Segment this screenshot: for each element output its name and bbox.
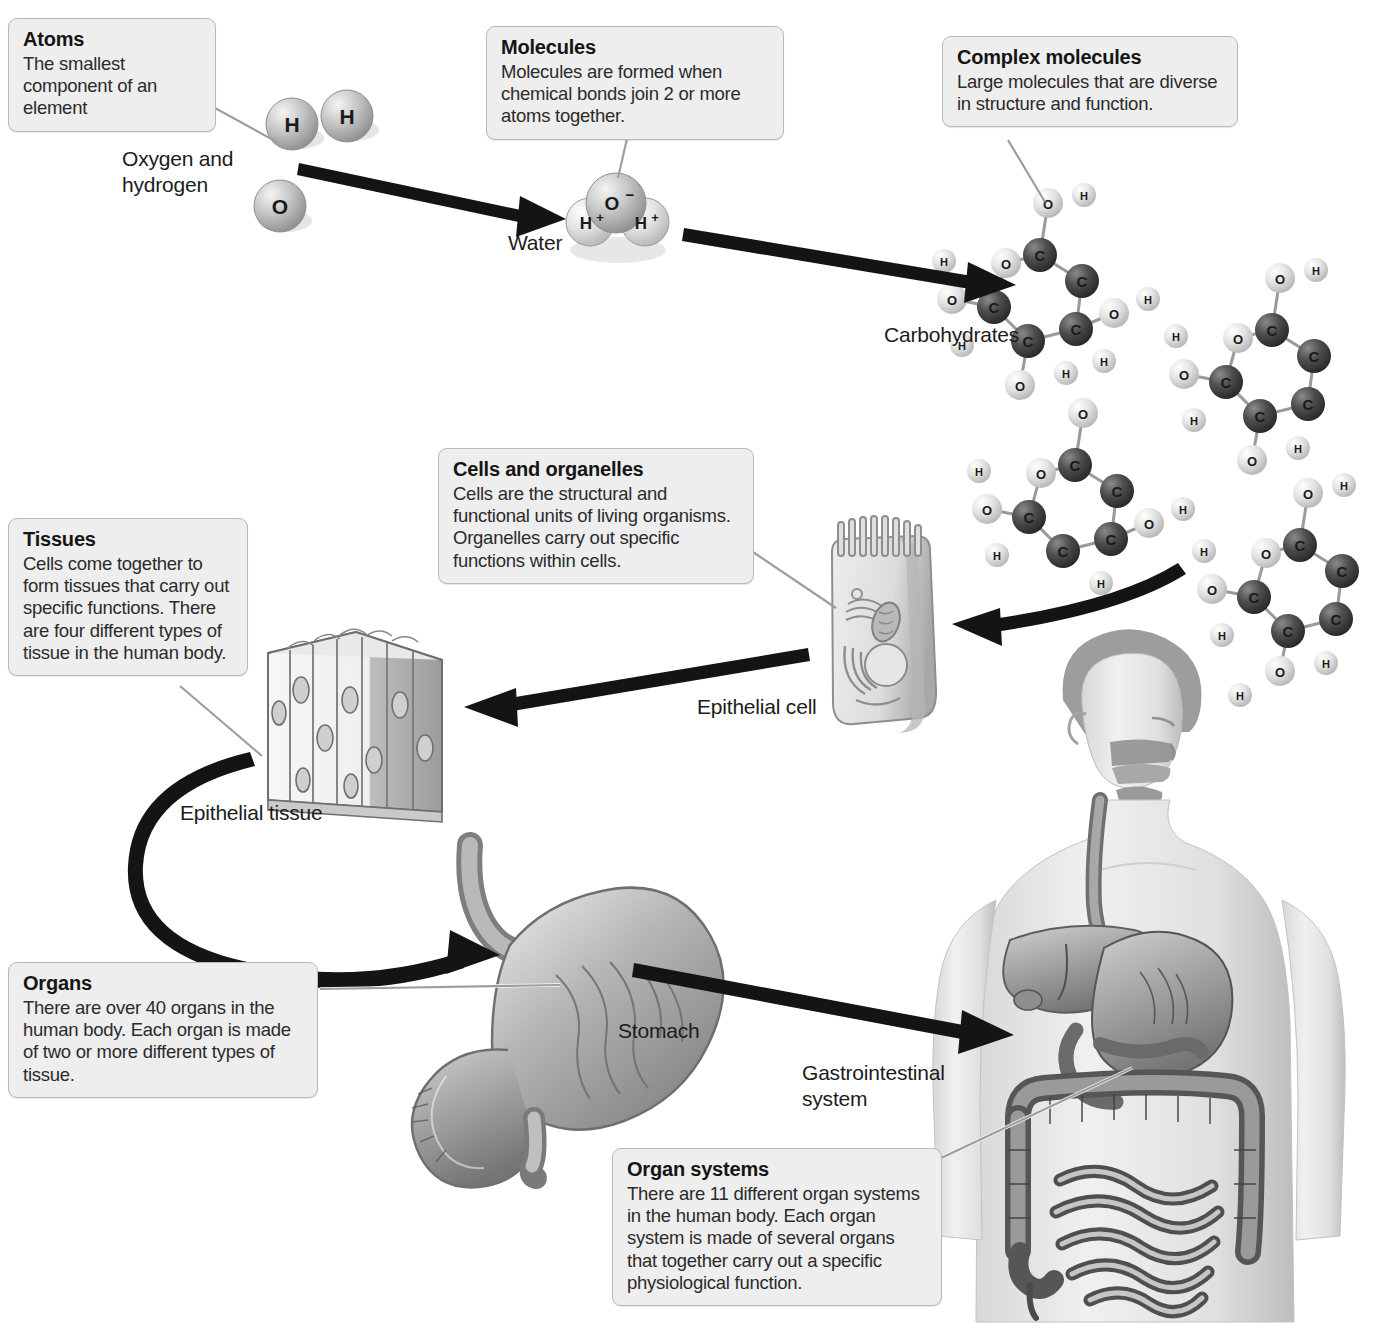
callout-complex-molecules-title: Complex molecules [957,46,1225,70]
stomach-illustration [412,845,724,1187]
human-body-illustration [933,629,1345,1322]
atom-hydrogen-1: H [266,98,324,150]
leader-cells [753,552,836,608]
svg-text:−: − [626,186,635,203]
water-molecule: O − H + H + [566,173,669,263]
callout-complex-molecules[interactable]: Complex molecules Large molecules that a… [942,36,1238,127]
callout-organs-body: There are over 40 organs in the human bo… [23,997,305,1087]
callout-organs[interactable]: Organs There are over 40 organs in the h… [8,962,318,1098]
svg-text:O: O [1179,368,1189,383]
callout-complex-molecules-body: Large molecules that are diverse in stru… [957,71,1225,116]
svg-text:C: C [1283,623,1294,640]
svg-text:H: H [339,105,354,128]
callout-molecules[interactable]: Molecules Molecules are formed when chem… [486,26,784,140]
svg-text:O: O [1275,665,1285,680]
svg-text:C: C [1309,348,1320,365]
svg-text:C: C [1255,408,1266,425]
callout-tissues-title: Tissues [23,528,235,552]
leader-organ-systems [920,1068,1132,1168]
svg-text:H: H [1340,480,1348,492]
svg-text:C: C [1106,531,1117,548]
svg-text:O: O [272,195,288,218]
hierarchy-diagram: H H O O − H + H + [0,0,1377,1336]
callout-tissues-body: Cells come together to form tissues that… [23,553,235,665]
svg-text:H: H [635,214,647,233]
svg-text:O: O [947,293,957,308]
svg-text:H: H [940,256,948,268]
svg-text:H: H [580,214,592,233]
svg-text:O: O [982,503,992,518]
svg-text:H: H [284,113,299,136]
svg-text:+: + [596,210,604,225]
svg-text:H: H [1322,658,1330,670]
epithelial-cell-illustration [832,516,936,733]
callout-cells-and-organelles[interactable]: Cells and organelles Cells are the struc… [438,448,754,584]
svg-text:C: C [1249,589,1260,606]
svg-text:C: C [1035,247,1046,264]
svg-text:C: C [1071,321,1082,338]
svg-text:O: O [1207,583,1217,598]
svg-text:O: O [1261,547,1271,562]
atom-oxygen: O [254,180,312,232]
callout-organ-systems-title: Organ systems [627,1158,929,1182]
leader-organs-line [320,985,560,989]
svg-text:+: + [651,210,659,225]
callout-molecules-body: Molecules are formed when chemical bonds… [501,61,771,128]
svg-text:C: C [1024,509,1035,526]
svg-text:H: H [1144,294,1152,306]
svg-text:H: H [1097,578,1105,590]
leader-organs [320,985,560,989]
svg-text:H: H [1190,415,1198,427]
arrow-complex-molecules-to-cells [952,563,1186,646]
callout-cells-title: Cells and organelles [453,458,741,482]
svg-text:O: O [1001,257,1011,272]
callout-molecules-title: Molecules [501,36,771,60]
svg-text:C: C [1295,537,1306,554]
leader-tissues [180,686,262,756]
svg-text:H: H [1172,331,1180,343]
callout-atoms-body: The smallest component of an element [23,53,203,120]
svg-text:H: H [1236,690,1244,702]
svg-text:C: C [1303,396,1314,413]
label-epithelial-tissue: Epithelial tissue [180,800,323,826]
svg-text:O: O [1015,379,1025,394]
svg-text:O: O [1144,517,1154,532]
svg-text:O: O [1233,332,1243,347]
callout-atoms[interactable]: Atoms The smallest component of an eleme… [8,18,216,132]
svg-text:C: C [1267,322,1278,339]
svg-text:C: C [1058,543,1069,560]
svg-text:C: C [1112,483,1123,500]
svg-text:C: C [1077,273,1088,290]
atom-hydrogen-2: H [321,90,379,142]
svg-text:C: C [1221,374,1232,391]
callout-organs-title: Organs [23,972,305,996]
callout-cells-body: Cells are the structural and functional … [453,483,741,573]
svg-text:O: O [1109,307,1119,322]
svg-text:C: C [1023,333,1034,350]
callout-organ-systems[interactable]: Organ systems There are 11 different org… [612,1148,942,1306]
svg-text:H: H [1218,630,1226,642]
label-gastrointestinal-system: Gastrointestinal system [802,1060,945,1111]
svg-text:O: O [1043,197,1053,212]
svg-text:H: H [975,466,983,478]
callout-organ-systems-body: There are 11 different organ systems in … [627,1183,929,1295]
leader-organ-systems-line [920,1068,1132,1168]
svg-text:C: C [1070,457,1081,474]
carbohydrate-molecule: C C C C C O O H O H O H O H H H [932,183,1359,707]
svg-text:H: H [1179,504,1187,516]
label-epithelial-cell: Epithelial cell [697,694,817,720]
svg-text:H: H [1312,265,1320,277]
svg-text:O: O [1247,454,1257,469]
svg-text:C: C [1337,563,1348,580]
svg-text:H: H [1200,546,1208,558]
leader-atoms [215,108,277,142]
arrow-tissues-to-organs [128,752,500,988]
callout-tissues[interactable]: Tissues Cells come together to form tiss… [8,518,248,676]
arrow-atoms-to-molecules [297,163,566,237]
label-oxygen-and-hydrogen: Oxygen and hydrogen [122,146,233,197]
label-carbohydrates: Carbohydrates [884,322,1019,348]
svg-text:H: H [993,550,1001,562]
svg-text:H: H [1080,190,1088,202]
label-stomach: Stomach [618,1018,699,1044]
leader-complex-molecules [1008,140,1045,202]
